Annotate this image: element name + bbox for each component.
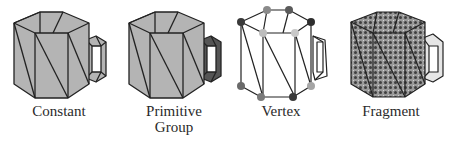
- mug-vertex-illustration: [233, 0, 343, 110]
- mug-constant-illustration: [0, 0, 118, 110]
- label-constant: Constant: [0, 103, 118, 119]
- label-line-2: Group: [115, 119, 233, 135]
- panel-primitive-group: Primitive Group: [115, 0, 233, 143]
- mug-fragment-illustration: [343, 0, 459, 110]
- mug-primitive-group-illustration: [115, 0, 233, 110]
- label-line-1: Primitive: [115, 103, 233, 119]
- label-fragment: Fragment: [343, 103, 439, 119]
- panel-vertex: Vertex: [233, 0, 343, 143]
- label-vertex: Vertex: [233, 103, 329, 119]
- panel-fragment: Fragment: [343, 0, 459, 143]
- panel-constant: Constant: [0, 0, 118, 143]
- label-primitive-group: Primitive Group: [115, 103, 233, 135]
